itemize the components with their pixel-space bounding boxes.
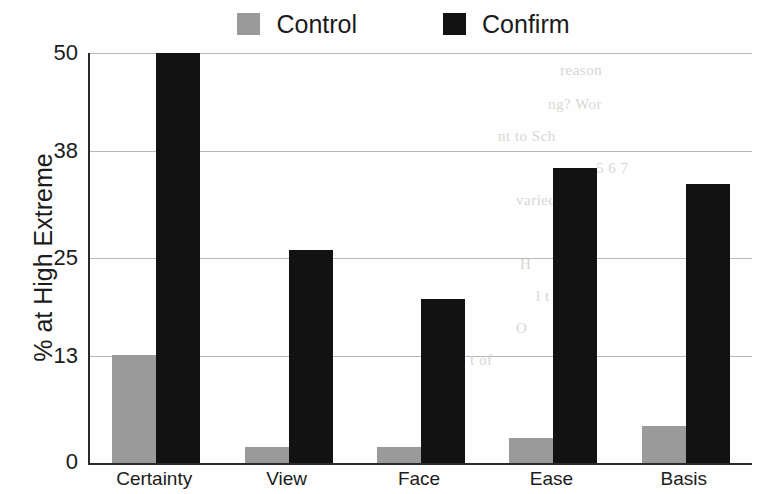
y-axis-tick-label: 25 <box>54 245 78 271</box>
legend-swatch-control <box>237 13 260 35</box>
y-axis-tick-label: 38 <box>54 138 78 164</box>
bar-view-control <box>245 447 289 463</box>
bar-basis-confirm <box>686 184 730 463</box>
legend-label-control: Control <box>276 12 357 37</box>
x-axis-label-face: Face <box>353 468 485 490</box>
chart-figure: reason ng? Wor nt to Sch 5 6 7 varied t … <box>0 0 767 494</box>
chart-legend: Control Confirm <box>0 4 767 44</box>
x-axis-label-ease: Ease <box>485 468 617 490</box>
y-axis-tick-label: 0 <box>66 449 78 475</box>
bar-certainty-confirm <box>156 53 200 463</box>
legend-swatch-confirm <box>443 13 466 35</box>
bar-ease-control <box>509 438 553 463</box>
y-axis-tick-label: 13 <box>54 343 78 369</box>
y-axis-tick-label: 50 <box>54 40 78 66</box>
bar-basis-control <box>642 426 686 463</box>
x-axis-label-basis: Basis <box>618 468 750 490</box>
legend-label-confirm: Confirm <box>482 12 570 37</box>
bar-group <box>90 53 222 463</box>
legend-entry-control: Control <box>237 12 357 37</box>
legend-entry-confirm: Confirm <box>443 12 570 37</box>
bar-view-confirm <box>289 250 333 463</box>
x-axis-label-certainty: Certainty <box>88 468 220 490</box>
bar-certainty-control <box>112 355 156 463</box>
bar-ease-confirm <box>553 168 597 463</box>
x-axis-labels: CertaintyViewFaceEaseBasis <box>88 468 750 490</box>
bar-group <box>620 53 752 463</box>
bar-face-control <box>377 447 421 463</box>
bar-group <box>222 53 354 463</box>
x-axis-label-view: View <box>220 468 352 490</box>
bar-face-confirm <box>421 299 465 463</box>
bar-groups <box>90 53 752 463</box>
bar-group <box>487 53 619 463</box>
bar-group <box>355 53 487 463</box>
plot-area: 013253850 <box>88 53 752 465</box>
